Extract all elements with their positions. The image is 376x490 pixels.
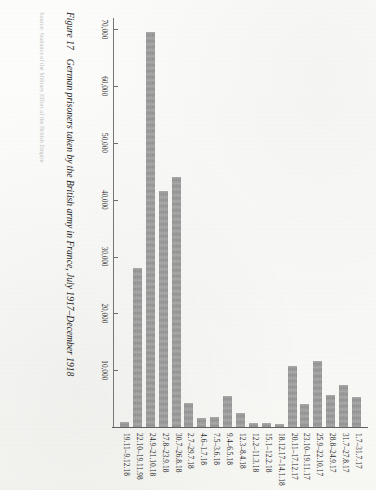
bar bbox=[236, 413, 245, 427]
bar-row: 9.4–6.5.18 bbox=[221, 18, 233, 427]
figure-number: Figure 17 bbox=[65, 12, 76, 50]
bar-category-label: 15.1–12.2.18 bbox=[264, 433, 273, 473]
bar bbox=[172, 177, 181, 427]
bar bbox=[133, 268, 142, 427]
bar bbox=[197, 418, 206, 427]
axis-tick bbox=[114, 200, 118, 201]
axis-tick bbox=[114, 257, 118, 258]
bar-category-label: 2.7–29.7.18 bbox=[186, 433, 195, 469]
bar-row: 15.1–12.2.18 bbox=[259, 18, 271, 427]
bar-category-label: 23.10–19.11.17 bbox=[302, 433, 311, 480]
bar-row: 22.10–19.11.98 bbox=[131, 18, 143, 427]
axis-tick-label: 50,000 bbox=[100, 133, 108, 153]
figure-source-note: Source: Statistics of the Military Effor… bbox=[39, 12, 46, 482]
bar-category-label: 28.8–24.9.17 bbox=[328, 433, 337, 473]
bar-row: 23.10–19.11.17 bbox=[298, 18, 310, 427]
bar-row: 4.6–1.7.18 bbox=[195, 18, 207, 427]
figure-canvas: 1.7–31.7.1731.7–27.8.1728.8–24.9.1725.9–… bbox=[0, 0, 376, 490]
axis-tick-label: 30,000 bbox=[100, 247, 108, 267]
bar bbox=[300, 404, 309, 427]
bar-category-label: 24.9–21.10.18 bbox=[148, 433, 157, 476]
bar-category-label: 7.5–3.6.18 bbox=[212, 433, 221, 465]
bar-row: 7.5–3.6.18 bbox=[208, 18, 220, 427]
bar bbox=[288, 366, 297, 427]
bar bbox=[223, 396, 232, 427]
axis-tick bbox=[114, 143, 118, 144]
bar bbox=[210, 417, 219, 427]
bar-category-label: 4.6–1.7.18 bbox=[199, 433, 208, 465]
bar-row: 27.8–23.9.18 bbox=[156, 18, 168, 427]
bar bbox=[184, 403, 193, 427]
bar-category-label: 30.7–26.8.18 bbox=[174, 433, 183, 473]
axis-tick bbox=[114, 86, 118, 87]
bar-category-label: 9.4–6.5.18 bbox=[225, 433, 234, 465]
bar-row: 24.9–21.10.18 bbox=[143, 18, 155, 427]
axis-tick-label: 70,000 bbox=[100, 19, 108, 39]
bar-category-label: 18.12.17–14.1.18 bbox=[277, 433, 286, 486]
bar-category-label: 25.9–22.10.17 bbox=[315, 433, 324, 476]
bar-row: 25.9–22.10.17 bbox=[311, 18, 323, 427]
bar bbox=[313, 361, 322, 427]
bar-category-label: 27.8–23.9.18 bbox=[161, 433, 170, 473]
bar bbox=[352, 397, 361, 427]
axis-tick bbox=[114, 313, 118, 314]
rotated-figure-wrapper: 1.7–31.7.1731.7–27.8.1728.8–24.9.1725.9–… bbox=[0, 0, 376, 490]
bar-row: 12.3–8.4.18 bbox=[234, 18, 246, 427]
bar bbox=[146, 32, 155, 427]
figure-caption: Figure 17German prisoners taken by the B… bbox=[65, 12, 76, 482]
bar-row: 1.7–31.7.17 bbox=[350, 18, 362, 427]
bar bbox=[339, 385, 348, 427]
axis-tick bbox=[114, 370, 118, 371]
bar bbox=[326, 395, 335, 427]
axis-tick-label: 10,000 bbox=[100, 360, 108, 380]
bar-row: 19.11–9.12.18 bbox=[118, 18, 130, 427]
axis-tick bbox=[114, 29, 118, 30]
bar bbox=[159, 191, 168, 427]
bar-row: 31.7–27.8.17 bbox=[337, 18, 349, 427]
bar-row: 18.12.17–14.1.18 bbox=[272, 18, 284, 427]
value-axis: 70,00060,00050,00040,00030,00020,00010,0… bbox=[113, 18, 114, 427]
bar-row: 12.2–11.3.18 bbox=[247, 18, 259, 427]
bar-category-label: 12.2–11.3.18 bbox=[251, 433, 260, 472]
category-axis-baseline bbox=[112, 427, 368, 428]
bar-chart-plot-area: 1.7–31.7.1731.7–27.8.1728.8–24.9.1725.9–… bbox=[116, 18, 362, 427]
bar-category-label: 19.11–9.12.18 bbox=[122, 433, 131, 476]
axis-tick-label: 40,000 bbox=[100, 190, 108, 210]
bar-category-label: 31.7–27.8.17 bbox=[341, 433, 350, 473]
axis-tick-label: 60,000 bbox=[100, 76, 108, 96]
axis-tick-label: 20,000 bbox=[100, 303, 108, 323]
bar-category-label: 20.11–17.12.17 bbox=[290, 433, 299, 480]
bar-row: 2.7–29.7.18 bbox=[182, 18, 194, 427]
bar-row: 30.7–26.8.18 bbox=[169, 18, 181, 427]
bar-category-label: 12.3–8.4.18 bbox=[238, 433, 247, 469]
bar-row: 28.8–24.9.17 bbox=[324, 18, 336, 427]
figure-caption-text: German prisoners taken by the British ar… bbox=[65, 59, 76, 377]
bar-category-label: 22.10–19.11.98 bbox=[135, 433, 144, 480]
bar-category-label: 1.7–31.7.17 bbox=[354, 433, 363, 469]
bar-row: 20.11–17.12.17 bbox=[285, 18, 297, 427]
